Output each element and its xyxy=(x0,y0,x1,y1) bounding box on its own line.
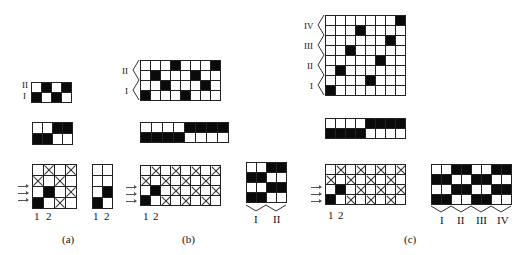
col-label-1: 1 xyxy=(93,211,99,222)
crossed-cell xyxy=(346,195,356,205)
filled-cell xyxy=(502,165,512,175)
pick-arrow-icon xyxy=(18,193,28,194)
empty-cell xyxy=(432,165,442,175)
filled-cell xyxy=(346,129,356,139)
filled-cell xyxy=(462,185,472,195)
crossed-cell xyxy=(191,166,201,176)
filled-cell xyxy=(336,185,346,195)
shaft-label-II: II xyxy=(22,80,28,91)
drawdown-grid-a xyxy=(32,164,77,209)
filled-cell xyxy=(492,165,502,175)
empty-cell xyxy=(366,16,376,26)
crossed-cell xyxy=(326,175,336,185)
empty-cell xyxy=(326,16,336,26)
filled-cell xyxy=(32,93,42,103)
shaft-label-I: I xyxy=(23,91,26,102)
empty-cell xyxy=(93,187,103,198)
filled-cell xyxy=(386,36,396,46)
empty-cell xyxy=(336,16,346,26)
crossed-cell xyxy=(211,166,221,176)
filled-cell xyxy=(63,123,73,134)
filled-cell xyxy=(277,183,287,193)
filled-cell xyxy=(218,123,229,133)
filled-cell xyxy=(42,83,52,93)
filled-cell xyxy=(52,93,62,103)
empty-cell xyxy=(196,133,207,143)
crossed-cell xyxy=(396,165,406,175)
empty-cell xyxy=(152,123,163,133)
empty-cell xyxy=(366,165,376,175)
empty-cell xyxy=(376,36,386,46)
empty-cell xyxy=(141,71,151,81)
empty-cell xyxy=(356,76,366,86)
empty-cell xyxy=(472,185,482,195)
empty-cell xyxy=(161,91,171,101)
crossed-cell xyxy=(44,165,55,176)
filled-cell xyxy=(346,46,356,56)
crossed-cell xyxy=(171,166,181,176)
filled-cell xyxy=(442,175,452,185)
empty-cell xyxy=(103,176,113,187)
empty-cell xyxy=(151,61,161,71)
empty-cell xyxy=(326,76,336,86)
pick-arrow-icon xyxy=(126,194,136,195)
shaft-label-III: III xyxy=(304,41,313,52)
empty-cell xyxy=(356,56,366,66)
empty-cell xyxy=(211,176,221,186)
crossed-cell xyxy=(66,187,77,198)
empty-cell xyxy=(356,86,366,96)
empty-cell xyxy=(336,46,346,56)
filled-cell xyxy=(161,81,171,91)
filled-cell xyxy=(267,183,277,193)
crossed-cell xyxy=(356,165,366,175)
unit-label-I: I xyxy=(254,214,258,225)
empty-cell xyxy=(386,26,396,36)
empty-cell xyxy=(43,123,53,134)
empty-cell xyxy=(141,61,151,71)
empty-cell xyxy=(93,165,103,176)
empty-cell xyxy=(336,36,346,46)
crossed-cell xyxy=(396,185,406,195)
pattern-grid-c xyxy=(431,164,512,205)
filled-cell xyxy=(432,175,442,185)
crossed-cell xyxy=(201,176,211,186)
empty-cell xyxy=(396,175,406,185)
empty-cell xyxy=(482,185,492,195)
shaft-label-IV: IV xyxy=(304,21,314,32)
empty-cell xyxy=(366,185,376,195)
empty-cell xyxy=(442,185,452,195)
crossed-cell xyxy=(386,175,396,185)
empty-cell xyxy=(396,86,406,96)
filled-cell xyxy=(452,165,462,175)
empty-cell xyxy=(201,186,211,196)
caption-a: (a) xyxy=(62,233,74,245)
empty-cell xyxy=(66,176,77,187)
filled-cell xyxy=(141,91,151,101)
filled-cell xyxy=(151,71,161,81)
pattern-grid-b xyxy=(246,162,287,203)
pick-arrow-icon xyxy=(311,201,321,202)
empty-cell xyxy=(141,166,151,176)
brace-icon xyxy=(246,204,266,212)
empty-cell xyxy=(386,76,396,86)
brace-icon xyxy=(431,205,451,213)
shaft-label-I: I xyxy=(310,81,313,92)
empty-cell xyxy=(191,91,201,101)
crossed-cell xyxy=(376,185,386,195)
empty-cell xyxy=(207,133,218,143)
empty-cell xyxy=(247,183,257,193)
empty-cell xyxy=(356,36,366,46)
filled-cell xyxy=(141,133,152,143)
empty-cell xyxy=(366,46,376,56)
empty-cell xyxy=(346,26,356,36)
drawdown-grid-b xyxy=(140,165,221,206)
filled-cell xyxy=(492,185,502,195)
crossed-cell xyxy=(66,165,77,176)
empty-cell xyxy=(326,26,336,36)
empty-cell xyxy=(366,26,376,36)
empty-cell xyxy=(257,183,267,193)
crossed-cell xyxy=(211,186,221,196)
filled-cell xyxy=(62,83,72,93)
filled-cell xyxy=(247,193,257,203)
filled-cell xyxy=(267,163,277,173)
